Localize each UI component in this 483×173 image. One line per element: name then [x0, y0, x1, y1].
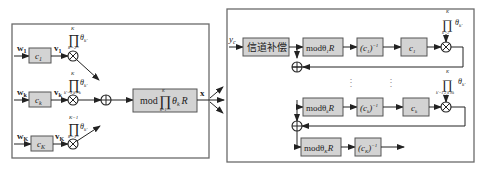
stage-K: modθKR (cK)−1: [297, 131, 404, 156]
ellipsis-1: ⋮: [346, 77, 356, 88]
diagram-canvas: w1 c1 v1 K ∏ k'=2 θk' wk ck vk K: [0, 0, 483, 173]
svg-text:θk': θk': [455, 18, 463, 28]
svg-text:k'=1: k'=1: [68, 134, 76, 139]
modulo-block-tx: mod ∏ K k=1 θkR: [133, 88, 197, 112]
svg-text:K: K: [161, 88, 165, 93]
svg-text:modθkR: modθkR: [306, 103, 335, 114]
channel-compensation-block: 信道补偿: [243, 38, 289, 56]
svg-text:信道补偿: 信道补偿: [247, 41, 287, 53]
product-label-k: K ∏ k'=1,k'≠k θk': [64, 71, 88, 96]
svg-text:k'=2: k'=2: [68, 45, 77, 50]
row-user-K: wK cK vK K−1 ∏ k'=1 θk': [14, 115, 100, 151]
svg-text:θk': θk': [80, 122, 88, 132]
svg-text:θk': θk': [80, 78, 88, 88]
svg-text:k'=1,2,k'≠k: k'=1,2,k'≠k: [436, 90, 454, 96]
sum-op-k: [292, 121, 302, 131]
svg-text:wK: wK: [17, 131, 29, 142]
stage-k: modθkR (ck)−1 ck K ∏ k'=1,2,k'≠k θk': [297, 69, 466, 126]
output-x: x: [200, 88, 205, 98]
svg-text:v1: v1: [54, 43, 62, 54]
svg-text:K: K: [70, 26, 75, 31]
row-user-1: w1 c1 v1 K ∏ k'=2 θk': [14, 26, 99, 80]
multiply-op-K: [68, 139, 78, 149]
svg-text:mod: mod: [140, 95, 158, 106]
multiply-op-1: [68, 51, 78, 61]
svg-text:vk: vk: [54, 87, 63, 98]
row-user-k: wk ck vk K ∏ k'=1,k'≠k θk': [14, 71, 133, 107]
svg-text:K: K: [445, 69, 450, 74]
ellipsis-2: ⋮: [386, 77, 396, 88]
svg-text:modθKR: modθKR: [304, 143, 334, 154]
input-w1: w1: [17, 43, 27, 54]
stage-1: modθ1R (c1)−1 c1 K ∏ k'=2 θk': [303, 9, 463, 67]
svg-text:k=1: k=1: [160, 107, 166, 112]
svg-text:K: K: [70, 71, 75, 76]
svg-text:modθ1R: modθ1R: [306, 43, 335, 54]
svg-text:K−1: K−1: [68, 115, 78, 120]
product-label-1: K ∏ k'=2 θk': [68, 26, 88, 50]
svg-text:θk': θk': [458, 77, 466, 87]
svg-text:wk: wk: [17, 87, 28, 98]
multiply-op-k: [68, 95, 78, 105]
svg-text:vK: vK: [55, 131, 65, 142]
sum-op-tx: [101, 95, 111, 105]
sum-op-1: [292, 62, 308, 72]
input-yc: yc: [228, 34, 236, 45]
svg-text:K: K: [445, 9, 450, 14]
svg-text:θk': θk': [80, 33, 88, 43]
